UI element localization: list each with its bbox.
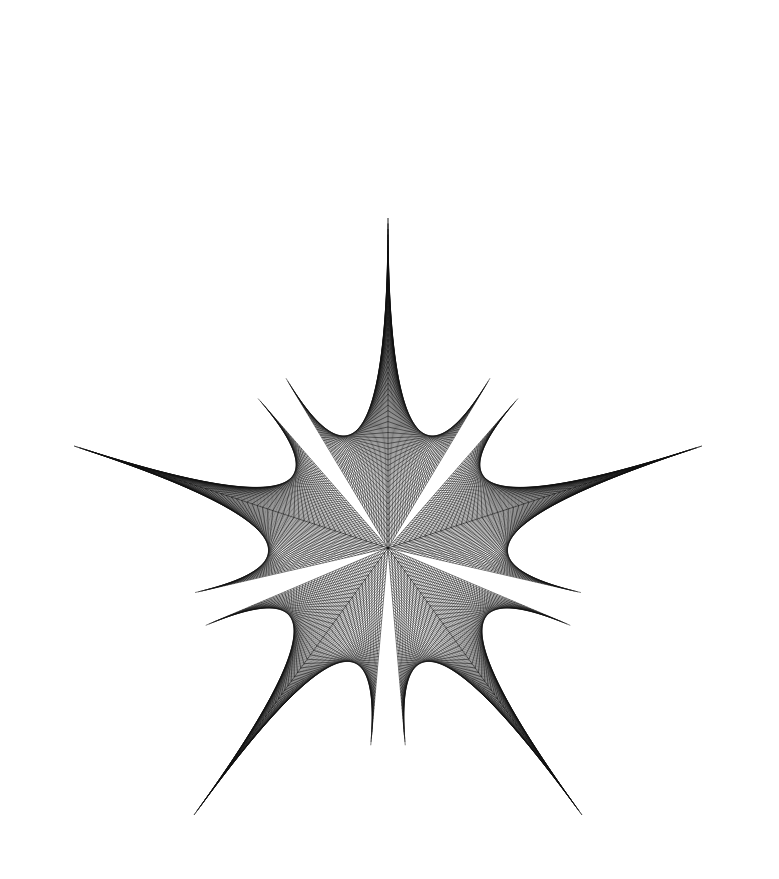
- envelope-line-set: [74, 218, 702, 815]
- string-art-star: [0, 0, 779, 879]
- figure-canvas: Five-pointed string-art star envelope: [0, 0, 779, 879]
- envelope-lines: [74, 218, 702, 815]
